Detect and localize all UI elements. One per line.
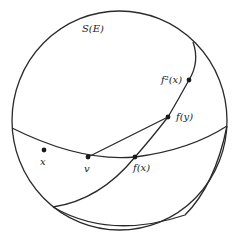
label-fy: f(y) xyxy=(176,112,193,122)
lower-arc xyxy=(53,126,227,226)
segment-v-fy xyxy=(88,117,168,157)
sphere-outline xyxy=(12,11,227,230)
point-fx xyxy=(133,155,138,160)
great-circle-arc xyxy=(53,42,196,207)
diagram-canvas xyxy=(0,0,236,238)
point-f2x xyxy=(187,78,192,83)
point-fy xyxy=(166,115,171,120)
sphere-label: S(E) xyxy=(82,24,104,34)
label-f2x: f²(x) xyxy=(161,75,182,85)
sphere-diagram: S(E) x v f(x) f(y) f²(x) xyxy=(0,0,236,238)
point-v xyxy=(86,155,91,160)
point-x xyxy=(42,148,47,153)
label-v: v xyxy=(84,164,90,174)
label-fx: f(x) xyxy=(133,163,150,173)
label-x: x xyxy=(40,157,46,167)
